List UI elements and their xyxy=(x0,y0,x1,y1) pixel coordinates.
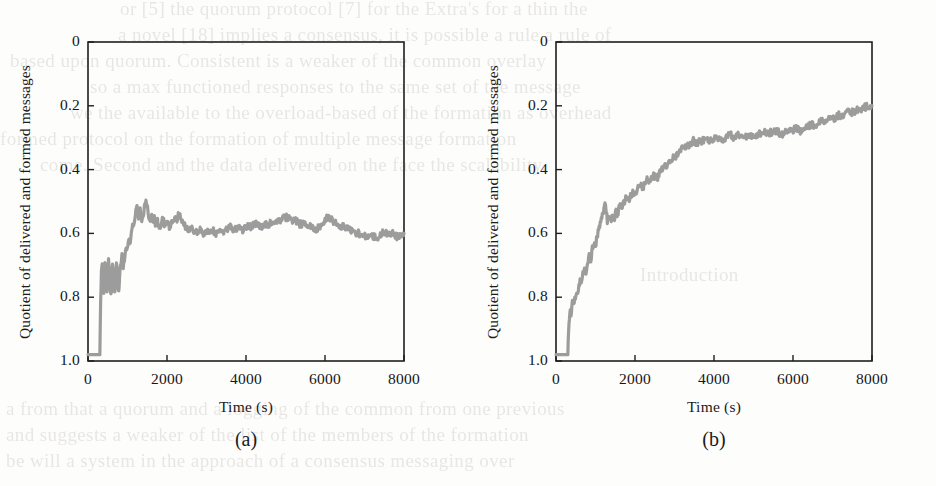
y-axis-tick-label: 0.6 xyxy=(34,223,80,241)
axis-frame xyxy=(88,42,404,361)
figure-container: Quotient of delivered and formed message… xyxy=(0,0,936,486)
plot-area-a: 1.00.80.60.40.2002000400060008000 xyxy=(0,0,468,400)
chart-svg xyxy=(468,0,936,400)
chart-panel-a: Quotient of delivered and formed message… xyxy=(0,0,468,486)
y-axis-tick-label: 0.8 xyxy=(502,287,548,305)
x-axis-label-b: Time (s) xyxy=(556,398,872,416)
data-line xyxy=(88,200,404,354)
x-axis-tick-label: 0 xyxy=(526,370,586,388)
x-axis-label-a: Time (s) xyxy=(88,398,404,416)
plot-area-b: 1.00.80.60.40.2002000400060008000 xyxy=(468,0,936,400)
axis-frame xyxy=(556,42,872,361)
x-axis-tick-label: 4000 xyxy=(216,370,276,388)
x-axis-tick-label: 2000 xyxy=(137,370,197,388)
y-axis-tick-label: 0.8 xyxy=(34,287,80,305)
x-axis-tick-label: 8000 xyxy=(374,370,434,388)
x-axis-tick-label: 6000 xyxy=(295,370,355,388)
subfigure-caption-a: (a) xyxy=(88,428,404,451)
x-axis-tick-label: 4000 xyxy=(684,370,744,388)
y-axis-tick-label: 0.2 xyxy=(502,96,548,114)
y-axis-tick-label: 0.4 xyxy=(502,160,548,178)
data-line xyxy=(556,103,872,354)
y-axis-tick-label: 1.0 xyxy=(502,351,548,369)
x-axis-tick-label: 2000 xyxy=(605,370,665,388)
x-axis-tick-label: 8000 xyxy=(842,370,902,388)
y-axis-tick-label: 0.2 xyxy=(34,96,80,114)
subfigure-caption-b: (b) xyxy=(556,428,872,451)
x-axis-tick-label: 0 xyxy=(58,370,118,388)
y-axis-tick-label: 0.4 xyxy=(34,160,80,178)
chart-svg xyxy=(0,0,468,400)
y-axis-tick-label: 1.0 xyxy=(34,351,80,369)
y-axis-tick-label: 0 xyxy=(502,32,548,50)
chart-panel-b: Quotient of delivered and formed message… xyxy=(468,0,936,486)
y-axis-tick-label: 0 xyxy=(34,32,80,50)
y-axis-tick-label: 0.6 xyxy=(502,223,548,241)
x-axis-tick-label: 6000 xyxy=(763,370,823,388)
